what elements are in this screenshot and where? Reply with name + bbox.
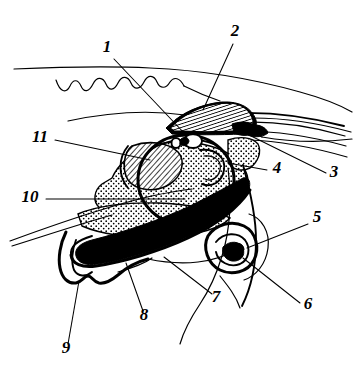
leader-line-8 <box>126 263 143 311</box>
scalp-wavy-outline <box>14 67 352 112</box>
anatomy-diagram-canvas: 1 2 3 4 5 6 7 8 9 10 11 <box>0 0 359 377</box>
label-8: 8 <box>140 305 149 324</box>
label-1: 1 <box>103 37 112 56</box>
label-5: 5 <box>313 207 322 226</box>
anatomy-artwork <box>10 67 352 344</box>
label-7: 7 <box>212 287 222 306</box>
label-3: 3 <box>329 162 339 181</box>
label-6: 6 <box>304 294 313 313</box>
label-2: 2 <box>230 21 240 40</box>
label-4: 4 <box>272 158 282 177</box>
label-10: 10 <box>22 187 40 206</box>
anatomy-figure: 1 2 3 4 5 6 7 8 9 10 11 <box>0 0 359 377</box>
hatched-upper-band <box>166 102 268 137</box>
label-9: 9 <box>62 338 71 357</box>
leader-line-9 <box>68 281 79 344</box>
label-11: 11 <box>32 127 48 146</box>
leader-line-1 <box>114 59 186 135</box>
spiral-organ <box>206 223 257 273</box>
